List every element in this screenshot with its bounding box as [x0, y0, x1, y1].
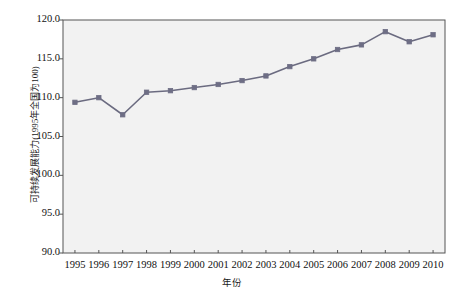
x-axis-tick-labels: 1995199619971998199920002001200220032004…	[0, 0, 464, 296]
x-tick-label: 2010	[413, 260, 453, 271]
chart-figure: 可持续发展能力(1995年全国为100) 90.095.0100.0105.01…	[0, 0, 464, 296]
x-axis-title: 年份	[0, 275, 464, 289]
